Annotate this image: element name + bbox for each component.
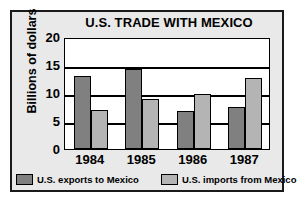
y-tick-0: 0 bbox=[38, 144, 60, 156]
gridline-15 bbox=[65, 67, 269, 69]
bar-1985-imports bbox=[142, 99, 159, 149]
legend-entry-exports: U.S. exports to Mexico bbox=[16, 174, 139, 185]
y-axis-tick-labels: 05101520 bbox=[34, 12, 60, 194]
y-tick-10: 10 bbox=[38, 88, 60, 100]
x-tick-1987: 1987 bbox=[219, 152, 271, 167]
x-tick-1986: 1986 bbox=[167, 152, 219, 167]
bar-1987-exports bbox=[228, 107, 245, 149]
chart-legend: U.S. exports to Mexico U.S. imports from… bbox=[16, 170, 278, 188]
bar-1986-exports bbox=[177, 111, 194, 149]
bar-1984-exports bbox=[74, 76, 91, 149]
bar-1985-exports bbox=[125, 69, 142, 149]
x-axis-tick-labels: 1984198519861987 bbox=[64, 152, 270, 168]
chart-figure: U.S. TRADE WITH MEXICO Billions of dolla… bbox=[10, 10, 284, 192]
y-tick-15: 15 bbox=[38, 60, 60, 72]
x-tick-1984: 1984 bbox=[64, 152, 116, 167]
bar-1986-imports bbox=[194, 94, 211, 149]
legend-swatch-imports-icon bbox=[161, 174, 178, 185]
y-tick-20: 20 bbox=[38, 32, 60, 44]
chart-title: U.S. TRADE WITH MEXICO bbox=[58, 15, 280, 30]
plot-inner bbox=[65, 39, 269, 149]
gridline-10 bbox=[65, 95, 269, 97]
legend-label-exports: U.S. exports to Mexico bbox=[37, 174, 139, 185]
x-tick-1985: 1985 bbox=[116, 152, 168, 167]
legend-swatch-exports-icon bbox=[16, 174, 33, 185]
y-tick-5: 5 bbox=[38, 116, 60, 128]
legend-label-imports: U.S. imports from Mexico bbox=[182, 174, 294, 185]
bar-1987-imports bbox=[245, 78, 262, 149]
plot-area bbox=[64, 38, 270, 150]
legend-entry-imports: U.S. imports from Mexico bbox=[161, 174, 294, 185]
bar-1984-imports bbox=[91, 110, 108, 149]
